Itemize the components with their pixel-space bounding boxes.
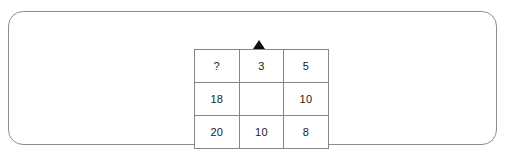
table-row: 18 10 <box>195 83 329 116</box>
triangle-shape <box>253 40 265 49</box>
grid-cell-r0c2[interactable]: 5 <box>284 50 329 83</box>
pointer-row <box>194 39 325 49</box>
grid-cell-r1c0[interactable]: 18 <box>195 83 240 116</box>
screenshot-root: ? 3 5 18 10 20 10 8 <box>0 0 510 157</box>
grid-cell-r2c0[interactable]: 20 <box>195 116 240 149</box>
grid-cell-r0c0[interactable]: ? <box>195 50 240 83</box>
grid-cell-r2c2[interactable]: 8 <box>284 116 329 149</box>
grid-cell-r0c1[interactable]: 3 <box>239 50 284 83</box>
grid-cell-r1c2[interactable]: 10 <box>284 83 329 116</box>
panel-frame: ? 3 5 18 10 20 10 8 <box>8 11 497 145</box>
number-puzzle-grid-block: ? 3 5 18 10 20 10 8 <box>194 39 325 146</box>
grid-cell-r1c1-empty[interactable] <box>239 83 284 116</box>
up-triangle-marker-icon <box>237 40 281 49</box>
table-row: ? 3 5 <box>195 50 329 83</box>
grid-cell-r2c1[interactable]: 10 <box>239 116 284 149</box>
table-row: 20 10 8 <box>195 116 329 149</box>
number-puzzle-table: ? 3 5 18 10 20 10 8 <box>194 49 329 149</box>
